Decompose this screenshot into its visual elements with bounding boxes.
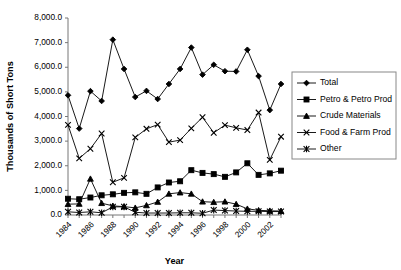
legend-item-label: Food & Farm Prod [320, 127, 391, 137]
y-axis-tick-label: 1,000.0 [34, 185, 62, 195]
x-axis-tick-label: 1990 [121, 219, 141, 239]
x-axis-tick-label: 1986 [76, 219, 96, 239]
data-point-marker [144, 126, 150, 132]
y-axis-tick-label: 6,000.0 [34, 61, 62, 71]
line-chart: 0.01,000.02,000.03,000.04,000.05,000.06,… [0, 0, 401, 270]
data-point-marker [279, 168, 284, 173]
data-point-marker [121, 175, 127, 181]
chart-container: 0.01,000.02,000.03,000.04,000.05,000.06,… [0, 0, 401, 270]
data-point-marker [132, 135, 138, 141]
y-axis-tick-label: 5,000.0 [34, 86, 62, 96]
data-point-marker [88, 146, 94, 152]
x-axis-tick-label: 2000 [233, 219, 253, 239]
data-point-marker [256, 110, 262, 116]
series-line [68, 113, 281, 183]
data-point-marker [99, 193, 104, 198]
y-axis-tick-label: 0.0 [50, 209, 62, 219]
data-point-marker [88, 195, 93, 200]
data-point-marker [222, 174, 227, 179]
data-point-marker [132, 94, 138, 100]
data-point-marker [211, 130, 217, 136]
data-point-marker [122, 190, 127, 195]
data-point-marker [267, 107, 273, 113]
data-point-marker [200, 170, 205, 175]
data-point-marker [155, 122, 161, 128]
data-point-marker [245, 161, 250, 166]
data-point-marker [88, 176, 94, 181]
data-point-marker [121, 66, 127, 72]
x-axis-title: Year [165, 256, 185, 266]
data-point-marker [155, 185, 160, 190]
y-axis-tick-label: 4,000.0 [34, 111, 62, 121]
data-point-marker [256, 73, 262, 79]
legend-item-label: Other [320, 143, 342, 153]
legend: TotalPetro & Petro ProdCrude MaterialsFo… [292, 72, 396, 159]
data-point-marker [222, 68, 228, 74]
x-axis-tick-label: 2002 [255, 219, 275, 239]
data-point-marker [144, 191, 149, 196]
data-point-marker [200, 114, 206, 120]
data-point-marker [76, 156, 82, 162]
y-axis-tick-label: 2,000.0 [34, 160, 62, 170]
data-point-marker [245, 47, 251, 53]
data-point-marker [278, 134, 284, 140]
legend-item-label: Petro & Petro Prod [320, 94, 392, 104]
data-point-marker [177, 190, 183, 195]
x-axis-tick-label: 1988 [98, 219, 118, 239]
data-point-marker [211, 172, 216, 177]
data-point-marker [256, 172, 261, 177]
y-axis-title: Thousands of Short Tons [5, 61, 15, 172]
data-point-marker [166, 180, 171, 185]
data-point-marker [189, 45, 195, 51]
series-total [65, 37, 284, 131]
series-line [68, 40, 281, 129]
x-axis-tick-label: 1992 [143, 219, 163, 239]
data-point-marker [99, 200, 105, 205]
data-point-marker [234, 170, 239, 175]
data-point-marker [178, 179, 183, 184]
data-point-marker [267, 171, 272, 176]
data-point-marker [65, 93, 71, 99]
series-food-farm-prod [65, 110, 284, 185]
data-point-marker [278, 81, 284, 87]
data-point-marker [133, 190, 138, 195]
data-point-marker [189, 126, 195, 132]
data-point-marker [233, 69, 239, 75]
x-axis-tick-label: 1984 [53, 219, 73, 239]
x-axis-tick-label: 1996 [188, 219, 208, 239]
data-point-marker [189, 168, 194, 173]
data-point-marker [304, 97, 309, 102]
data-point-marker [267, 157, 273, 163]
legend-item-label: Crude Materials [320, 110, 381, 120]
y-axis-tick-label: 3,000.0 [34, 135, 62, 145]
y-axis-tick-label: 8,000.0 [34, 12, 62, 22]
data-point-marker [110, 192, 115, 197]
data-point-marker [155, 199, 161, 204]
x-axis-tick-label: 1994 [165, 219, 185, 239]
y-axis-tick-label: 7,000.0 [34, 37, 62, 47]
data-point-marker [110, 37, 116, 43]
data-point-marker [222, 122, 228, 128]
data-point-marker [76, 126, 82, 132]
legend-item-label: Total [320, 77, 338, 87]
x-axis-tick-label: 1998 [210, 219, 230, 239]
